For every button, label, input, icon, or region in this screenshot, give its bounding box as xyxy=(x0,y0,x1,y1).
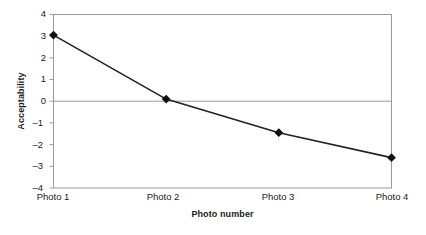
x-tick-label-photo-2: Photo 2 xyxy=(132,191,194,202)
y-tick-label-0: 0 xyxy=(24,96,46,106)
y-tick-label-neg3: –3 xyxy=(21,161,43,171)
y-tick-label-1: 1 xyxy=(24,74,46,84)
data-point-marker xyxy=(49,31,58,40)
y-axis-ticks xyxy=(50,15,54,189)
series-markers xyxy=(49,31,396,162)
y-tick-label-neg1: –1 xyxy=(21,118,43,128)
y-tick-label-4: 4 xyxy=(24,9,46,19)
x-tick-label-photo-4: Photo 4 xyxy=(361,191,423,202)
chart-container: Acceptability 4 3 2 1 0 –1 –2 –3 –4 Phot… xyxy=(0,0,426,235)
y-tick-label-neg2: –2 xyxy=(21,140,43,150)
x-tick-label-photo-3: Photo 3 xyxy=(247,191,309,202)
series-line-acceptability xyxy=(54,35,392,158)
data-point-marker xyxy=(162,95,171,104)
data-point-marker xyxy=(274,128,283,137)
x-axis-title: Photo number xyxy=(53,209,392,219)
x-tick-label-photo-1: Photo 1 xyxy=(22,191,84,202)
data-point-marker xyxy=(387,153,396,162)
y-tick-label-2: 2 xyxy=(24,53,46,63)
y-tick-label-3: 3 xyxy=(24,31,46,41)
